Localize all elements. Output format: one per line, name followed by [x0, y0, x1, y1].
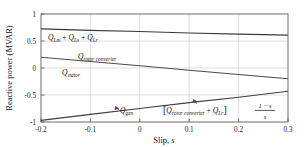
- reactive-power-chart: 1 0.5 0 -0.5 -1 -0.2 -0.1 0 0.1 0.2 0.3 …: [0, 0, 307, 147]
- ytick-label--0.5: -0.5: [25, 92, 37, 100]
- x-axis-title: Slip, s: [153, 135, 175, 145]
- fraction-numerator: 1 − s: [258, 102, 272, 109]
- xtick-label-0.1: 0.1: [185, 126, 194, 134]
- xtick-label--0.2: -0.2: [35, 126, 47, 134]
- xtick-label-0.3: 0.3: [284, 126, 293, 134]
- xtick-label-0.2: 0.2: [234, 126, 243, 134]
- ytick-label-1: 1: [32, 11, 36, 19]
- xtick-label--0.1: -0.1: [85, 126, 97, 134]
- chart-svg: 1 0.5 0 -0.5 -1 -0.2 -0.1 0 0.1 0.2 0.3 …: [0, 0, 307, 147]
- y-axis-title: Reactive power (MVAR): [4, 25, 14, 110]
- ytick-label-0.5: 0.5: [27, 38, 36, 46]
- xtick-label-0: 0: [138, 126, 142, 134]
- ytick-label-0: 0: [32, 65, 36, 73]
